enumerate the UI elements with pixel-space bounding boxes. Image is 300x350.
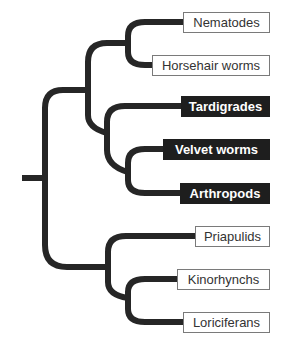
- taxon-loriciferans: Loriciferans: [183, 312, 270, 333]
- taxon-label: Kinorhynchs: [188, 272, 260, 287]
- horsehair-branch: [128, 43, 153, 65]
- tardigrades-branch: [107, 106, 182, 133]
- taxon-label: Arthropods: [190, 186, 261, 201]
- arthropods-branch: [128, 172, 181, 193]
- taxon-label: Tardigrades: [189, 99, 262, 114]
- taxon-priapulids: Priapulids: [195, 226, 270, 247]
- taxon-horsehair-worms: Horsehair worms: [152, 55, 270, 76]
- taxon-label: Horsehair worms: [162, 58, 260, 73]
- taxon-kinorhynchs: Kinorhynchs: [177, 269, 270, 290]
- nematodes-branch: [128, 22, 184, 43]
- taxon-velvet-worms: Velvet worms: [163, 139, 270, 160]
- velvet-worms-branch: [128, 149, 164, 172]
- taxon-label: Velvet worms: [175, 142, 258, 157]
- taxon-nematodes: Nematodes: [183, 12, 270, 33]
- taxon-tardigrades: Tardigrades: [181, 96, 270, 117]
- kinorhynchs-branch: [128, 279, 178, 298]
- taxon-label: Nematodes: [193, 15, 259, 30]
- nematoida-branch: [88, 43, 128, 90]
- taxon-label: Priapulids: [204, 229, 261, 244]
- taxon-arthropods: Arthropods: [180, 183, 270, 204]
- priapulids-branch: [108, 236, 196, 267]
- root-upper-branch: [45, 90, 88, 178]
- taxon-label: Loriciferans: [193, 315, 260, 330]
- onychophora-arthropoda-branch: [107, 133, 128, 172]
- root-lower-branch: [45, 178, 108, 267]
- phylogenetic-tree: [0, 0, 300, 350]
- loriciferans-branch: [128, 298, 184, 322]
